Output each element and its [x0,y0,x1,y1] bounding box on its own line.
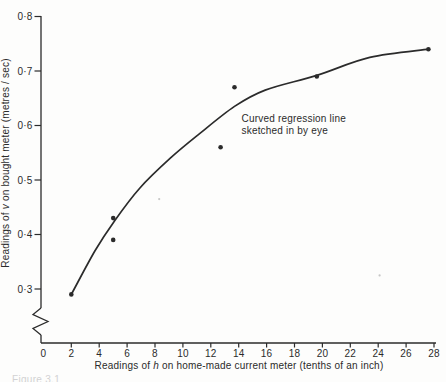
annotation-line: sketched in by eye [241,125,328,136]
print-speck [378,274,380,276]
y-tick-label: 0·3 [17,284,32,295]
data-point [218,145,223,150]
x-tick-label: 26 [400,348,412,359]
cut-off-caption: Figure 3.1 [12,374,432,382]
data-point [111,238,116,243]
figure: 0·30·40·50·60·70·80246810121416182022242… [0,0,446,382]
x-tick-label: 24 [372,348,384,359]
x-tick-label: 4 [96,348,102,359]
data-point [111,216,116,221]
print-speck [158,198,160,200]
y-tick-label: 0·5 [17,175,32,186]
axis-break-icon [33,308,48,335]
x-tick-label: 28 [428,348,440,359]
data-point [315,74,320,79]
y-axis-label: Readings of v on bought meter (metres / … [0,58,11,267]
x-axis-label: Readings of h on home-made current meter… [95,360,384,371]
data-point [232,85,237,90]
annotation-line: Curved regression line [241,113,346,124]
y-tick-label: 0·7 [17,66,32,77]
y-tick-label: 0·6 [17,120,32,131]
data-point [69,292,74,297]
x-tick-label: 18 [289,348,301,359]
y-tick-label: 0·4 [17,229,32,240]
regression-curve [71,49,428,294]
x-tick-label: 20 [317,348,329,359]
x-tick-label: 6 [124,348,130,359]
x-tick-label: 2 [68,348,74,359]
x-tick-label: 0 [41,348,47,359]
x-tick-label: 8 [152,348,158,359]
scatter-chart: 0·30·40·50·60·70·80246810121416182022242… [0,0,446,382]
x-tick-label: 22 [345,348,357,359]
x-tick-label: 14 [233,348,245,359]
x-tick-label: 12 [205,348,217,359]
data-point [426,47,431,52]
x-tick-label: 16 [261,348,273,359]
x-tick-label: 10 [177,348,189,359]
y-tick-label: 0·8 [17,11,32,22]
